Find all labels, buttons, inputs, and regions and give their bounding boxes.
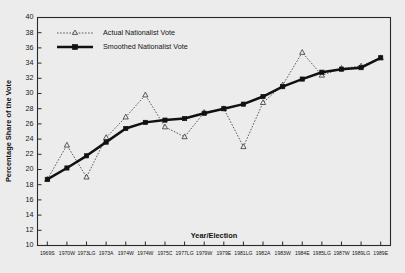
- x-tick-label: 1984E: [295, 250, 310, 256]
- x-tick-label: 1979E: [216, 250, 231, 256]
- x-tick-label: 1979W: [196, 250, 212, 256]
- legend-label-smoothed: Smoothed Nationalist Vote: [103, 42, 188, 51]
- data-point-square: [163, 118, 167, 122]
- y-tick-label: 30: [26, 88, 34, 97]
- chart-figure: 10121416182022242628303234363840 1969S19…: [0, 0, 405, 273]
- data-point-square: [241, 102, 245, 106]
- y-tick-label: 18: [26, 180, 34, 189]
- y-tick-label: 28: [26, 104, 34, 113]
- data-point-square: [124, 126, 128, 130]
- y-tick-label: 10: [26, 240, 34, 249]
- data-point-square: [320, 70, 324, 74]
- y-axis-title: Percentage Share of the Vote: [4, 80, 13, 182]
- data-point-square: [182, 116, 186, 120]
- x-tick-label: 1973A: [99, 250, 114, 256]
- y-tick-label: 14: [26, 210, 34, 219]
- data-point-square: [222, 107, 226, 111]
- x-tick-label: 1987W: [333, 250, 349, 256]
- y-tick-label: 36: [26, 43, 34, 52]
- x-tick-label: 1974W: [137, 250, 153, 256]
- y-tick-label: 24: [26, 134, 34, 143]
- x-tick-label: 1975C: [157, 250, 172, 256]
- x-tick-label: 1973LG: [77, 250, 95, 256]
- x-tick-label: 1974W: [118, 250, 134, 256]
- y-tick-label: 12: [26, 225, 34, 234]
- x-tick-label: 1989E: [373, 250, 388, 256]
- data-point-square: [84, 154, 88, 158]
- legend-label-actual: Actual Nationalist Vote: [103, 28, 175, 37]
- data-point-square: [45, 177, 49, 181]
- data-point-square: [143, 120, 147, 124]
- x-tick-label: 1989LG: [352, 250, 370, 256]
- y-tick-label: 26: [26, 119, 34, 128]
- data-point-square: [359, 66, 363, 70]
- data-point-square: [379, 56, 383, 60]
- data-point-square: [300, 77, 304, 81]
- x-tick-label: 1981LG: [234, 250, 252, 256]
- y-tick-label: 22: [26, 149, 34, 158]
- y-tick-label: 16: [26, 195, 34, 204]
- x-tick-label: 1983W: [275, 250, 291, 256]
- nationalist-vote-line-chart: 10121416182022242628303234363840 1969S19…: [0, 0, 405, 273]
- data-point-square: [281, 85, 285, 89]
- x-tick-label: 1985LG: [313, 250, 331, 256]
- y-tick-label: 34: [26, 58, 34, 67]
- data-point-square: [202, 111, 206, 115]
- x-tick-label: 1970W: [59, 250, 75, 256]
- data-point-square: [261, 94, 265, 98]
- y-tick-label: 32: [26, 73, 34, 82]
- x-tick-label: 1977LG: [176, 250, 194, 256]
- data-point-square: [65, 166, 69, 170]
- y-tick-label: 40: [26, 12, 34, 21]
- x-tick-label: 1982A: [256, 250, 271, 256]
- legend-marker-square-icon: [73, 45, 78, 50]
- data-point-square: [104, 140, 108, 144]
- x-tick-label: 1969S: [40, 250, 55, 256]
- data-point-square: [339, 67, 343, 71]
- y-tick-label: 38: [26, 28, 34, 37]
- y-tick-label: 20: [26, 164, 34, 173]
- x-axis-title: Year/Election: [191, 231, 238, 240]
